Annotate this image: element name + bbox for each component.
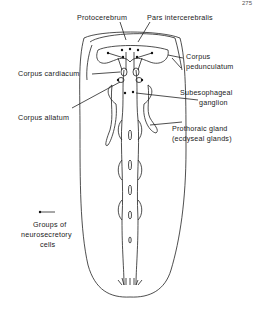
- legend-line-3: cells: [40, 241, 55, 249]
- label-prothoracic-gland-1: Prothoraic gland: [172, 125, 228, 133]
- legend-line-2: neurosecretory: [21, 231, 72, 239]
- label-corpus-pedunculatum-1: Corpus: [186, 53, 210, 61]
- label-corpus-cardiacum: Corpus cardiacum: [18, 70, 80, 78]
- label-subesophageal-2: ganglion: [199, 99, 228, 107]
- legend-line-1: Groups of: [33, 221, 66, 229]
- label-subesophageal-1: Subesophageal: [180, 89, 233, 97]
- label-protocerebrum: Protocerebrum: [77, 14, 127, 22]
- label-corpus-pedunculatum-2: pedunculatum: [186, 63, 234, 71]
- label-pars-intercerebralis: Pars intercerebralis: [147, 14, 213, 22]
- label-corpus-allatum: Corpus allatum: [18, 114, 69, 122]
- insect-neuroendocrine-diagram: [0, 0, 254, 321]
- label-prothoracic-gland-2: (ecdyseal glands): [172, 135, 232, 143]
